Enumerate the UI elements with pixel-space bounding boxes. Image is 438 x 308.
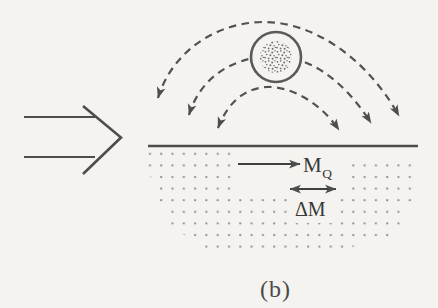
figure-caption: (b) [260, 276, 291, 302]
diagram-canvas: MQ ΔM (b) [0, 0, 438, 308]
figure-b-diagram: MQ ΔM (b) [0, 0, 438, 308]
streamline-arc-inner [218, 87, 339, 130]
eddy-speckle-fill [260, 41, 292, 73]
flux-label-main: M [303, 153, 322, 177]
flux-label-sub: Q [322, 166, 332, 181]
delta-m-label: ΔM [295, 198, 326, 220]
inflow-arrow [24, 106, 121, 174]
